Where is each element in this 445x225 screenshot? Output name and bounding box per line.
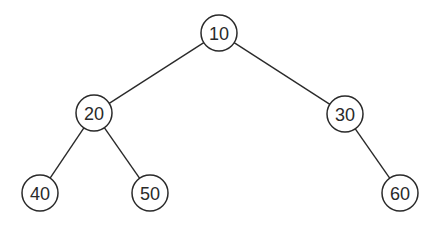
edge-10-30 <box>234 43 330 105</box>
node-label: 10 <box>209 24 229 44</box>
tree-node-40: 40 <box>22 175 58 211</box>
tree-node-50: 50 <box>132 175 168 211</box>
tree-node-60: 60 <box>382 175 418 211</box>
tree-node-10: 10 <box>201 15 237 51</box>
tree-nodes: 102030405060 <box>22 15 418 211</box>
binary-tree-diagram: 102030405060 <box>0 0 445 225</box>
tree-node-30: 30 <box>327 96 363 132</box>
node-label: 20 <box>84 104 104 124</box>
edge-30-60 <box>355 129 389 178</box>
node-label: 40 <box>30 184 50 204</box>
edge-10-20 <box>109 43 204 104</box>
node-label: 60 <box>390 184 410 204</box>
edge-20-40 <box>50 128 84 178</box>
tree-node-20: 20 <box>76 95 112 131</box>
node-label: 50 <box>140 184 160 204</box>
node-label: 30 <box>335 105 355 125</box>
edge-20-50 <box>104 128 139 179</box>
